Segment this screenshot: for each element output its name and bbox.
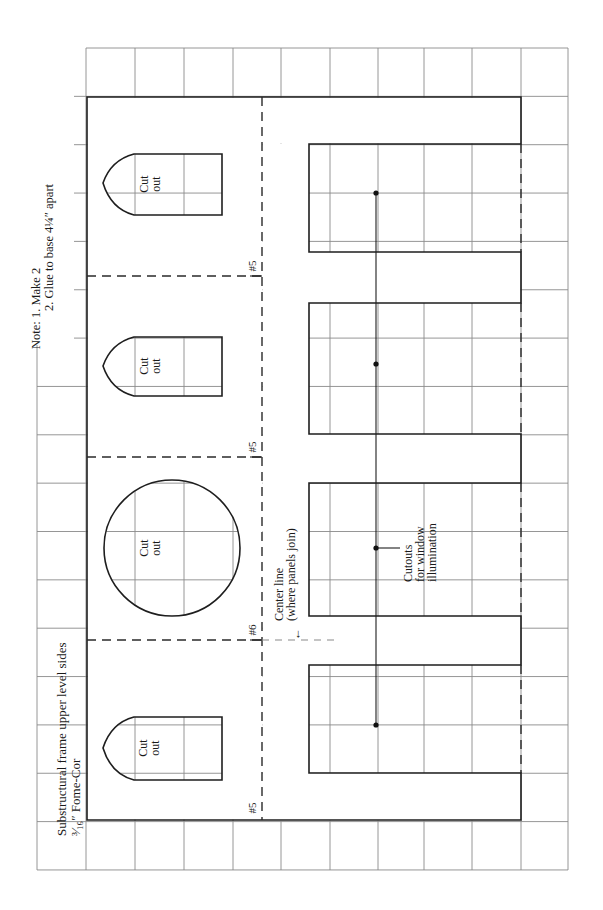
cutout-label-arch-bottom-2: out [148,740,162,756]
tooth-blank [376,616,521,665]
center-line-label-2: (where panels join) [284,528,298,621]
fold-label-bottom: #5 [246,802,258,814]
note-line-1: Note: 1. Make 2 [29,268,43,349]
fold-label-center: #6 [246,624,258,636]
tooth-blank [309,434,376,483]
cutout-label-circle-2: out [149,540,163,556]
window-dot [373,545,378,550]
window-dot [373,190,378,195]
title-line-1: Substructural frame upper level sides [54,643,69,837]
window-dot [373,361,378,366]
fold-label-upper-middle: #5 [246,441,258,453]
cutout-label-arch-top-2: out [149,176,163,192]
tooth-blank [376,252,521,303]
panel-blank-spine [263,144,309,821]
pattern-diagram: Substructural frame upper level sides ³⁄… [0,0,603,910]
title-line-2: ³⁄₁₆″ Fome-Cor [68,758,83,836]
window-dot [373,722,378,727]
tooth-blank [309,252,376,303]
window-label-3: illumination [425,523,439,582]
cutout-label-arch-middle-2: out [149,358,163,374]
panel-blank-left [88,98,263,820]
tooth-blank [376,434,521,483]
note-line-2: 2. Glue to base 4¼″ apart [42,183,56,311]
panel-blank-strip [263,773,521,821]
center-line-arrow-icon: ← [289,628,303,640]
panel-blank-strip [263,98,521,144]
fold-label-top: #5 [246,260,258,272]
